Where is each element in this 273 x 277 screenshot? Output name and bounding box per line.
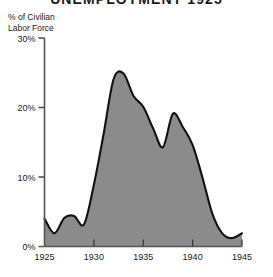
x-tick-label: 1940 (183, 252, 203, 262)
y-tick-label: 20% (17, 103, 35, 113)
unemployment-area-chart: UNEMPLOYMENT 1925 % of Civilian Labor Fo… (0, 0, 273, 277)
x-tick-label: 1935 (133, 252, 153, 262)
x-tick-label: 1945 (232, 252, 252, 262)
y-tick-label: 10% (17, 173, 35, 183)
y-tick-label: 30% (17, 34, 35, 44)
y-axis-ticks: 0%10%20%30% (17, 34, 44, 253)
x-tick-label: 1930 (84, 252, 104, 262)
x-tick-label: 1925 (34, 252, 54, 262)
y-tick-label: 0% (22, 242, 35, 252)
plot-area: 0%10%20%30% 19251930193519401945 (0, 0, 273, 277)
unemployment-area-fill (45, 71, 243, 246)
